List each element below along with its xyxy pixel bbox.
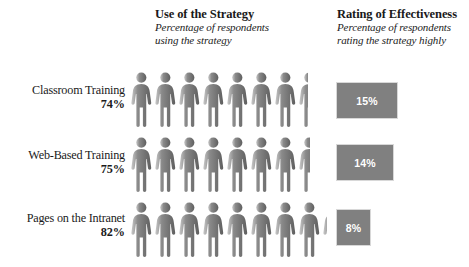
row-label-web-based-training: Web-Based Training 75% [4,148,125,176]
person-icon [178,134,202,192]
row-label-use-percent: 82% [4,225,125,239]
header-rating-of-effectiveness: Rating of Effectiveness Percentage of re… [337,7,457,46]
header-use-subtitle-line2: using the strategy [155,34,269,47]
header-use-subtitle-line1: Percentage of respondents [155,21,269,34]
pictogram-row-pages-on-the-intranet [130,199,327,257]
person-icon [130,134,154,192]
person-icon-partial [322,199,327,257]
row-label-name: Pages on the Intranet [4,211,125,225]
rating-box-value: 14% [354,157,376,169]
person-icon [250,199,274,257]
person-icon [154,134,178,192]
person-icon [154,199,178,257]
header-rating-subtitle-line1: Percentage of respondents [337,21,457,34]
person-icon [178,199,202,257]
person-icon [178,69,202,127]
person-icon [202,134,226,192]
person-icon [202,69,226,127]
person-icon [154,69,178,127]
rating-box-value: 15% [356,95,378,107]
person-icon [226,69,250,127]
row-label-pages-on-the-intranet: Pages on the Intranet 82% [4,211,125,239]
header-use-title: Use of the Strategy [155,7,269,21]
person-icon [250,134,274,192]
person-icon [274,199,298,257]
person-icon [226,134,250,192]
row-label-name: Classroom Training [4,83,125,97]
infographic-canvas: Use of the Strategy Percentage of respon… [0,0,469,267]
header-rating-subtitle-line2: rating the strategy highly [337,34,457,47]
header-use-of-strategy: Use of the Strategy Percentage of respon… [155,7,269,46]
person-icon [130,69,154,127]
person-icon [250,69,274,127]
person-icon [274,134,298,192]
rating-box-classroom-training: 15% [336,82,398,119]
person-icon [202,199,226,257]
person-icon-partial [298,69,308,127]
person-icon [226,199,250,257]
pictogram-row-classroom-training [130,69,308,127]
person-icon [274,69,298,127]
rating-box-web-based-training: 14% [336,144,394,181]
pictogram-row-web-based-training [130,134,310,192]
rating-box-value: 8% [346,222,362,234]
row-label-use-percent: 75% [4,162,125,176]
person-icon-partial [298,134,310,192]
person-icon [130,199,154,257]
person-icon [298,199,322,257]
row-label-use-percent: 74% [4,97,125,111]
row-label-classroom-training: Classroom Training 74% [4,83,125,111]
rating-box-pages-on-the-intranet: 8% [336,209,371,246]
header-rating-title: Rating of Effectiveness [337,7,457,21]
row-label-name: Web-Based Training [4,148,125,162]
